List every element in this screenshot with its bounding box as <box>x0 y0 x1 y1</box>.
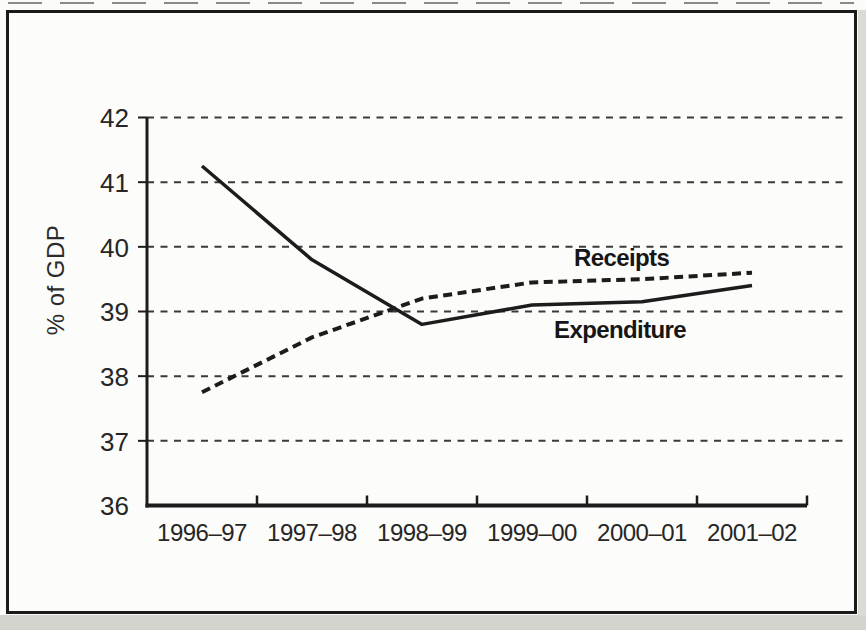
x-tick-label: 2000–01 <box>597 519 687 546</box>
y-axis-title: % of GDP <box>42 210 70 350</box>
x-tick-label: 1996–97 <box>157 519 247 546</box>
y-tick-label: 41 <box>100 168 129 198</box>
x-tick-label: 1999–00 <box>487 519 577 546</box>
x-tick-label: 1998–99 <box>377 519 467 546</box>
y-tick-label: 37 <box>100 427 129 457</box>
scanned-page: 363738394041421996–971997–981998–991999–… <box>0 0 866 630</box>
x-tick-label: 1997–98 <box>267 519 357 546</box>
x-tick-label: 2001–02 <box>707 519 797 546</box>
expenditure-line <box>202 166 752 324</box>
y-tick-label: 40 <box>100 233 129 263</box>
y-tick-label: 42 <box>100 103 129 133</box>
line-chart: 363738394041421996–971997–981998–991999–… <box>0 0 866 630</box>
y-tick-label: 39 <box>100 297 129 327</box>
expenditure-series-label: Expenditure <box>554 316 686 344</box>
y-tick-label: 36 <box>100 491 129 521</box>
y-tick-label: 38 <box>100 362 129 392</box>
receipts-series-label: Receipts <box>574 244 669 272</box>
